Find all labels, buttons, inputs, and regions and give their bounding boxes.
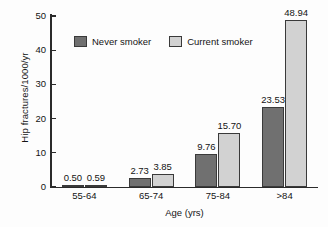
y-axis-tick-label: 40: [20, 44, 46, 55]
y-axis-tick-label: 30: [20, 78, 46, 89]
x-axis-tick-label: 75-84: [185, 190, 251, 201]
legend-item-never-smoker: Never smoker: [74, 36, 151, 47]
bar-never-smoker[interactable]: [262, 107, 284, 187]
x-axis-tick-label: 55-64: [51, 190, 117, 201]
x-axis-tick-label: >84: [252, 190, 318, 201]
y-axis-tick-label: 10: [20, 147, 46, 158]
x-axis-tick-label: 65-74: [118, 190, 184, 201]
y-axis-tick-label: 0: [20, 181, 46, 192]
y-axis-tick-label: 50: [20, 10, 46, 21]
legend-label-never-smoker: Never smoker: [92, 36, 151, 47]
x-axis-title: Age (yrs): [51, 207, 318, 218]
legend-swatch-never-smoker: [74, 36, 87, 47]
bar-value-label: 48.94: [279, 7, 313, 18]
legend-label-current-smoker: Current smoker: [187, 36, 252, 47]
chart-figure: Hip fractures/1000/yr 01020304050 0.500.…: [0, 0, 328, 227]
bar-current-smoker[interactable]: [285, 20, 307, 187]
legend-item-current-smoker: Current smoker: [169, 36, 252, 47]
legend-swatch-current-smoker: [169, 36, 182, 47]
y-axis-tick-label: 20: [20, 113, 46, 124]
chart-legend: Never smoker Current smoker: [74, 36, 253, 47]
